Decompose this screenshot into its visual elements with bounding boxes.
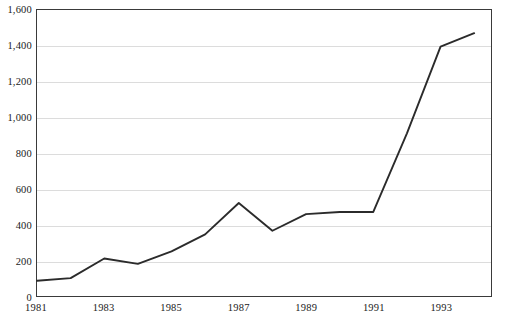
y-tick-label: 1,000 bbox=[0, 112, 32, 123]
x-tick-label: 1993 bbox=[418, 302, 464, 314]
line-chart: 02004006008001,0001,2001,4001,600 198119… bbox=[0, 0, 505, 323]
y-tick-label: 600 bbox=[0, 184, 32, 195]
plot-area bbox=[36, 9, 492, 297]
series-line-1 bbox=[37, 33, 474, 281]
y-tick-label: 1,200 bbox=[0, 76, 32, 87]
x-tick-label: 1991 bbox=[351, 302, 397, 314]
y-tick-label: 0 bbox=[0, 292, 32, 303]
y-tick-label: 800 bbox=[0, 148, 32, 159]
y-axis: 02004006008001,0001,2001,4001,600 bbox=[0, 0, 32, 323]
x-tick-label: 1983 bbox=[81, 302, 127, 314]
x-tick-label: 1989 bbox=[283, 302, 329, 314]
x-tick-label: 1981 bbox=[13, 302, 59, 314]
y-tick-label: 1,600 bbox=[0, 4, 32, 15]
y-tick-label: 400 bbox=[0, 220, 32, 231]
y-tick-label: 200 bbox=[0, 256, 32, 267]
y-tick-label: 1,400 bbox=[0, 40, 32, 51]
x-axis: 1981198319851987198919911993 bbox=[0, 302, 505, 318]
series-layer bbox=[37, 10, 491, 296]
x-tick-label: 1985 bbox=[148, 302, 194, 314]
x-tick-label: 1987 bbox=[216, 302, 262, 314]
